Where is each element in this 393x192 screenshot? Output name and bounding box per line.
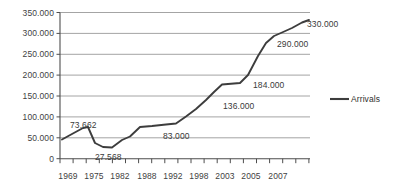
y-tick-label-300000: 300.000 <box>6 29 54 38</box>
y-tick-label-350000: 350.000 <box>6 9 54 18</box>
y-tick-label-200000: 200.000 <box>6 71 54 80</box>
y-tick-label-0: 0 <box>6 155 54 164</box>
x-tick-label-2007: 2007 <box>258 172 298 181</box>
data-label-73662: 73.662 <box>70 121 97 130</box>
data-label-136000: 136.000 <box>223 102 254 111</box>
data-label-27568: 27.568 <box>95 153 122 162</box>
y-tick-label-250000: 250.000 <box>6 50 54 59</box>
y-tick-label-100000: 100.000 <box>6 113 54 122</box>
legend-label-arrivals: Arrivals <box>351 95 380 104</box>
y-tick-label-50000: 50.000 <box>6 134 54 143</box>
line-chart: 350.000 300.000 250.000 200.000 150.000 … <box>0 0 393 192</box>
data-label-184000: 184.000 <box>253 81 284 90</box>
data-label-330000: 330.000 <box>307 20 338 29</box>
data-label-83000: 83.000 <box>163 132 190 141</box>
data-label-290000: 290.000 <box>277 40 308 49</box>
y-tick-label-150000: 150.000 <box>6 92 54 101</box>
